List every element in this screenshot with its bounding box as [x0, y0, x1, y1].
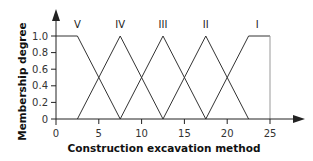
y-tick-label: 0.8 [32, 47, 48, 58]
y-tick-label: 0 [42, 114, 48, 125]
y-tick-label: 0.4 [32, 80, 48, 91]
series-lines [56, 36, 270, 119]
x-tick-label: 25 [264, 128, 277, 139]
series-line-I [206, 36, 270, 119]
x-tick-label: 5 [96, 128, 102, 139]
y-tick-label: 0.2 [32, 97, 48, 108]
series-line-III [120, 36, 206, 119]
x-axis-title: Construction excavation method [68, 142, 261, 154]
x-tick-label: 0 [53, 128, 59, 139]
series-line-II [163, 36, 249, 119]
series-label-I: I [256, 19, 259, 30]
series-label-V: V [74, 19, 81, 30]
x-tick-label: 20 [221, 128, 234, 139]
y-axis-title: Membership degree [16, 22, 28, 140]
series-line-V [56, 36, 120, 119]
x-axis-arrow-icon [293, 115, 305, 123]
series-line-IV [77, 36, 163, 119]
series-label-II: II [203, 19, 209, 30]
y-tick-label: 0.6 [32, 64, 48, 75]
axes [51, 9, 305, 125]
membership-function-chart: VIVIIIIII051015202500.20.40.60.81.0Const… [0, 0, 313, 161]
y-axis-arrow-icon [52, 9, 60, 21]
x-tick-label: 10 [135, 128, 148, 139]
series-label-IV: IV [115, 19, 125, 30]
x-tick-label: 15 [178, 128, 191, 139]
y-tick-label: 1.0 [32, 31, 48, 42]
series-label-III: III [159, 19, 168, 30]
